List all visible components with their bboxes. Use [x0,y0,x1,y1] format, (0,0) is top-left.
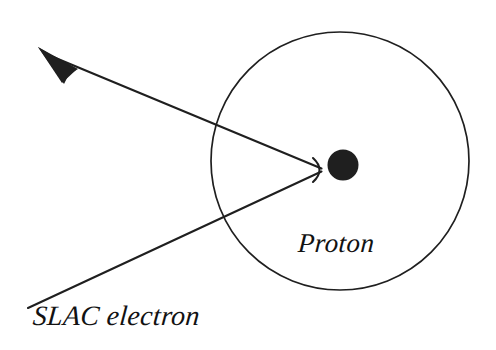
incoming-electron-path [28,172,322,309]
scatter-vertex-cusp [313,158,320,182]
proton-core-dot [328,150,359,181]
scattering-diagram [0,0,496,350]
diagram-canvas: Proton SLAC electron [0,0,496,350]
slac-electron-label: SLAC electron [32,300,202,332]
outgoing-electron-path [52,57,322,169]
proton-label: Proton [297,228,376,259]
